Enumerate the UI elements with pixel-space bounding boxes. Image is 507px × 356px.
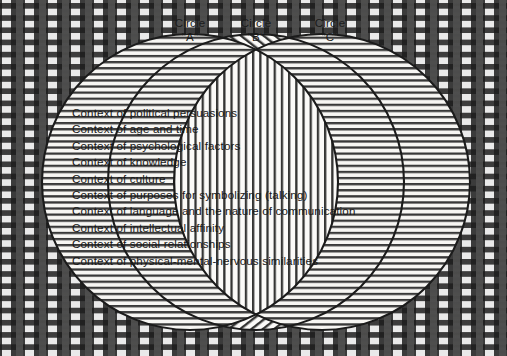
context-line: Context of social relationships <box>72 236 402 252</box>
context-line: Context of purposes for symbolizing (tal… <box>72 187 402 203</box>
circle-c-label: Circle "C" <box>290 16 370 44</box>
figure-canvas: Circle "A" Circle "B" Circle "C" Context… <box>0 0 507 356</box>
circle-b-label-name: Circle <box>216 16 296 30</box>
context-line: Context of knowledge <box>72 154 402 170</box>
circle-b-label: Circle "B" <box>216 16 296 44</box>
context-line: Context of language and the nature of co… <box>72 203 402 219</box>
circle-c-label-id: "C" <box>290 30 370 44</box>
context-line: Context of age and time <box>72 121 402 137</box>
context-line: Context of culture <box>72 171 402 187</box>
context-line: Context of psychological factors <box>72 138 402 154</box>
context-line: Context of intellectual affinity <box>72 220 402 236</box>
context-list: Context of political persuasions Context… <box>72 105 402 269</box>
circle-b-label-id: "B" <box>216 30 296 44</box>
context-line: Context of physical-mental-nervous simil… <box>72 253 402 269</box>
context-line: Context of political persuasions <box>72 105 402 121</box>
circle-c-label-name: Circle <box>290 16 370 30</box>
